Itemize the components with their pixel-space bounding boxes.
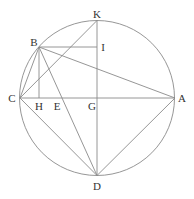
segment-cb [20,47,39,98]
label-point-e: E [54,100,61,112]
geometry-diagram: KBICHEGAD [0,0,194,199]
label-point-c: C [8,92,15,104]
label-point-h: H [35,100,43,112]
segment-da [97,98,175,176]
label-point-k: K [93,8,101,20]
label-point-g: G [88,100,96,112]
label-point-a: A [178,92,186,104]
segment-ba [39,47,175,98]
label-point-i: I [101,41,105,53]
label-point-b: B [30,36,37,48]
label-point-d: D [93,180,101,192]
segment-ck [20,21,97,99]
